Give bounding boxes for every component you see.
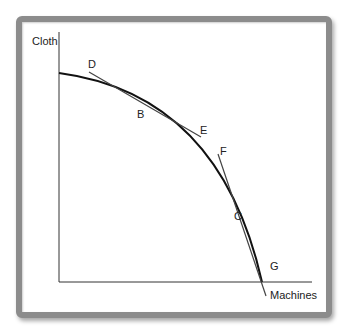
- point-label-b: B: [137, 108, 144, 120]
- ppf-diagram: Cloth Machines D B E F C G: [0, 0, 341, 326]
- point-label-c: C: [234, 210, 242, 222]
- point-label-e: E: [200, 124, 207, 136]
- point-label-g: G: [270, 260, 279, 272]
- tangent-line-fg: [218, 154, 266, 296]
- point-label-f: F: [220, 145, 227, 157]
- x-axis-label: Machines: [270, 289, 318, 301]
- tangent-line-de: [89, 72, 201, 137]
- frontier-curve: [59, 73, 262, 282]
- y-axis-label: Cloth: [32, 35, 58, 47]
- point-label-d: D: [88, 58, 96, 70]
